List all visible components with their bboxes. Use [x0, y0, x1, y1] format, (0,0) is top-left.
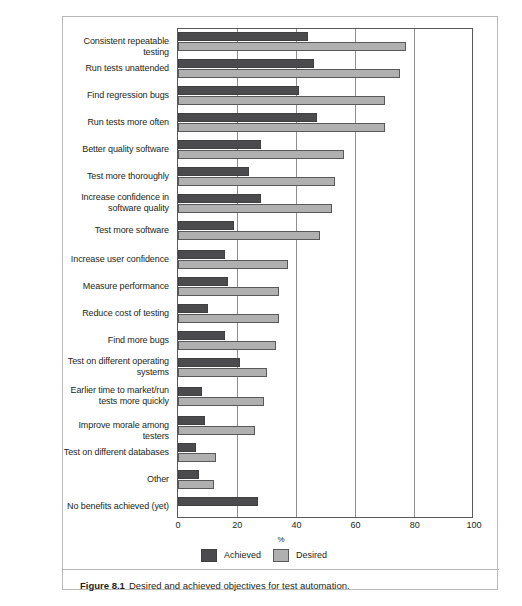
bar-row: Find more bugs	[63, 327, 499, 354]
bar-achieved	[178, 59, 314, 68]
bar-row-label: Earlier time to market/runtests more qui…	[63, 385, 169, 406]
bar-row-label: Find more bugs	[63, 335, 169, 346]
bar-row-label: Other	[63, 474, 169, 485]
bar-row-label: Test more software	[63, 225, 169, 236]
bar-group	[178, 412, 474, 439]
bar-row-label: Measure performance	[63, 281, 169, 292]
legend-swatch-achieved-icon	[201, 549, 217, 562]
bar-group	[178, 217, 474, 244]
bar-row: Increase user confidence	[63, 246, 499, 273]
bar-group	[178, 273, 474, 300]
legend-swatch-desired-icon	[273, 549, 289, 562]
caption-divider	[63, 569, 499, 570]
bar-row-label: Better quality software	[63, 144, 169, 155]
legend-item-desired: Desired	[273, 548, 327, 562]
bar-desired	[178, 204, 332, 213]
bar-chart: Consistent repeatable testingRun tests u…	[63, 17, 499, 545]
bar-desired	[178, 453, 216, 462]
bar-row: Reduce cost of testing	[63, 300, 499, 327]
bar-desired	[178, 368, 267, 377]
figure-caption-text: Desired and achieved objectives for test…	[129, 580, 350, 591]
bar-desired	[178, 480, 214, 489]
bar-row-label: Increase confidence insoftware quality	[63, 192, 169, 213]
bar-row-label: Run tests unattended	[63, 63, 169, 74]
bar-achieved	[178, 277, 228, 286]
bar-row-label: Find regression bugs	[63, 90, 169, 101]
bar-row-label: Test more thoroughly	[63, 171, 169, 182]
bar-achieved	[178, 304, 208, 313]
bar-achieved	[178, 194, 261, 203]
bar-row: Earlier time to market/runtests more qui…	[63, 383, 499, 410]
bar-desired	[178, 231, 320, 240]
bar-achieved	[178, 443, 196, 452]
bar-desired	[178, 42, 406, 51]
x-tick-label: 60	[351, 520, 361, 530]
bar-row: Run tests more often	[63, 109, 499, 136]
bar-desired	[178, 287, 279, 296]
x-tick-label: 40	[291, 520, 301, 530]
bar-achieved	[178, 221, 234, 230]
bar-group	[178, 439, 474, 466]
bar-achieved	[178, 387, 202, 396]
bar-achieved	[178, 331, 225, 340]
x-tick-label: 100	[466, 520, 481, 530]
bar-row: Find regression bugs	[63, 82, 499, 109]
bar-group	[178, 466, 474, 493]
legend-label-desired: Desired	[296, 550, 327, 560]
bar-row: Increase confidence insoftware quality	[63, 190, 499, 217]
x-tick-label: 0	[175, 520, 180, 530]
bar-row-label: Run tests more often	[63, 117, 169, 128]
bar-group	[178, 109, 474, 136]
bar-achieved	[178, 113, 317, 122]
bar-desired	[178, 96, 385, 105]
bar-achieved	[178, 358, 240, 367]
bar-row: Test more software	[63, 217, 499, 244]
bar-desired	[178, 69, 400, 78]
bar-row-label: Test on different operatingsystems	[63, 356, 169, 377]
bar-row-label: Test on different databases	[63, 447, 169, 458]
x-axis-title: %	[63, 535, 499, 544]
bar-row-label: Reduce cost of testing	[63, 308, 169, 319]
bar-row: Run tests unattended	[63, 55, 499, 82]
bar-group	[178, 300, 474, 327]
bar-achieved	[178, 32, 308, 41]
bar-row: Consistent repeatable testing	[63, 28, 499, 55]
bar-desired	[178, 177, 335, 186]
figure-caption-label: Figure 8.1	[80, 580, 125, 591]
bar-desired	[178, 260, 288, 269]
bar-row-label: Improve morale among testers	[63, 420, 169, 441]
bar-row: Test on different databases	[63, 439, 499, 466]
bar-group	[178, 493, 474, 520]
x-tick-label: 20	[232, 520, 242, 530]
bar-desired	[178, 123, 385, 132]
bar-achieved	[178, 250, 225, 259]
bar-group	[178, 136, 474, 163]
bar-group	[178, 354, 474, 381]
bar-row: Test on different operatingsystems	[63, 354, 499, 381]
bar-achieved	[178, 167, 249, 176]
bar-row: Other	[63, 466, 499, 493]
figure-caption: Figure 8.1Desired and achieved objective…	[80, 580, 480, 591]
bar-achieved	[178, 140, 261, 149]
bar-achieved	[178, 470, 199, 479]
bar-row: Measure performance	[63, 273, 499, 300]
bar-group	[178, 327, 474, 354]
bar-desired	[178, 314, 279, 323]
bar-group	[178, 190, 474, 217]
bar-desired	[178, 397, 264, 406]
bar-desired	[178, 341, 276, 350]
bar-desired	[178, 150, 344, 159]
bar-row: Better quality software	[63, 136, 499, 163]
bar-group	[178, 383, 474, 410]
figure-container: Consistent repeatable testingRun tests u…	[62, 16, 498, 590]
bar-row-label: Increase user confidence	[63, 254, 169, 265]
legend-item-achieved: Achieved	[201, 548, 261, 562]
x-tick-label: 80	[410, 520, 420, 530]
bar-group	[178, 28, 474, 55]
bar-desired	[178, 426, 255, 435]
bar-achieved	[178, 86, 299, 95]
bar-group	[178, 163, 474, 190]
bar-group	[178, 55, 474, 82]
bar-achieved	[178, 497, 258, 506]
legend-label-achieved: Achieved	[224, 550, 261, 560]
